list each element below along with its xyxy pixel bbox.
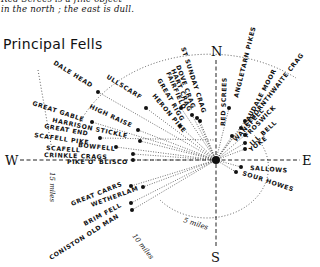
fell-dale-head: DALE HEAD (52, 59, 94, 89)
fell-labels: DALE HEAD ULLSCARF GREAT GABLE HIGH RAIS… (32, 26, 305, 261)
ring-label-15: 15 miles (48, 172, 56, 202)
ring-label-5: 5 miles (182, 216, 209, 232)
viewpoint-marker (212, 156, 220, 164)
west-label: W (5, 153, 19, 168)
ring-label-10: 10 miles (130, 232, 155, 261)
fell-pike-o-blisco: PIKE O' BLISCO (67, 158, 128, 165)
fells-diagram: N S E W 5 miles 10 miles 15 miles DALE H… (0, 0, 320, 267)
north-label: N (211, 44, 222, 59)
fell-bowfell: BOWFELL (78, 141, 116, 152)
fell-angletarn-pikes: ANGLETARN PIKES (232, 26, 256, 99)
south-label: S (211, 250, 220, 265)
east-label: E (302, 153, 312, 168)
